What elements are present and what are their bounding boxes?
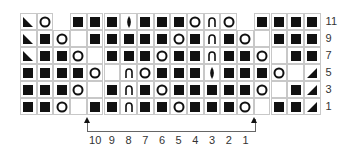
- row-number: 7: [326, 49, 332, 61]
- filled-square-icon: [307, 34, 317, 44]
- right-triangle-icon: [306, 67, 318, 79]
- chart-cell: [104, 30, 121, 47]
- filled-square-icon: [224, 51, 234, 61]
- chart-cell: [170, 64, 187, 81]
- filled-square-icon: [157, 34, 167, 44]
- filled-square-icon: [73, 17, 83, 27]
- filled-square-icon: [57, 85, 67, 95]
- chart-cell: [254, 81, 271, 98]
- filled-square-icon: [40, 68, 50, 78]
- yarn-over-circle-icon: [40, 16, 51, 27]
- chart-cell: [53, 64, 70, 81]
- chart-cell: [271, 13, 288, 30]
- filled-square-icon: [157, 102, 167, 112]
- chart-cell: [220, 81, 237, 98]
- chart-cell: [20, 47, 37, 64]
- filled-square-icon: [257, 17, 267, 27]
- chart-cell: [254, 30, 271, 47]
- chart-cell: [237, 30, 254, 47]
- chart-cell: [20, 81, 37, 98]
- chart-cell: [104, 98, 121, 115]
- chart-cell: [53, 98, 70, 115]
- chart-cell: [287, 47, 304, 64]
- chart-cell: [20, 13, 37, 30]
- filled-square-icon: [207, 85, 217, 95]
- chart-cell: [254, 13, 271, 30]
- chart-cell: [204, 47, 221, 64]
- chart-cell: [37, 13, 54, 30]
- yarn-over-circle-icon: [140, 67, 151, 78]
- column-number: 4: [187, 134, 204, 146]
- no-stitch-gap: [237, 13, 254, 30]
- filled-square-icon: [291, 102, 301, 112]
- chart-cell: [237, 98, 254, 115]
- right-triangle-icon: [306, 101, 318, 113]
- filled-square-icon: [107, 17, 117, 27]
- yarn-over-circle-icon: [190, 16, 201, 27]
- filled-square-icon: [40, 34, 50, 44]
- chart-cell: [187, 47, 204, 64]
- repeat-end-arrow-icon: [251, 117, 257, 123]
- chart-cell: [187, 81, 204, 98]
- chart-cell: [20, 64, 37, 81]
- filled-square-icon: [190, 34, 200, 44]
- filled-square-icon: [307, 17, 317, 27]
- chart-cell: [170, 98, 187, 115]
- column-number: 5: [170, 134, 187, 146]
- chart-cell: [220, 30, 237, 47]
- yarn-over-circle-icon: [156, 84, 167, 95]
- filled-square-icon: [57, 51, 67, 61]
- chart-cell: [37, 47, 54, 64]
- filled-square-icon: [40, 102, 50, 112]
- chart-cell: [304, 13, 321, 30]
- chart-cell: [120, 47, 137, 64]
- filled-square-icon: [107, 85, 117, 95]
- filled-square-icon: [107, 102, 117, 112]
- column-number: 7: [137, 134, 154, 146]
- chart-cell: [70, 47, 87, 64]
- chart-cell: [137, 47, 154, 64]
- chart-cell: [53, 47, 70, 64]
- chart-cell: [220, 64, 237, 81]
- filled-square-icon: [140, 51, 150, 61]
- filled-square-icon: [23, 68, 33, 78]
- filled-square-icon: [240, 85, 250, 95]
- chart-cell: [87, 81, 104, 98]
- chart-cell: [271, 81, 288, 98]
- chart-cell: [204, 13, 221, 30]
- yarn-over-circle-icon: [156, 50, 167, 61]
- filled-square-icon: [157, 68, 167, 78]
- column-number: 2: [220, 134, 237, 146]
- yarn-over-circle-icon: [240, 33, 251, 44]
- chart-cell: [70, 30, 87, 47]
- chart-cell: [87, 64, 104, 81]
- chart-cell: [304, 81, 321, 98]
- chart-cell: [187, 13, 204, 30]
- yarn-over-circle-icon: [90, 67, 101, 78]
- filled-square-icon: [190, 85, 200, 95]
- chart-cell: [120, 98, 137, 115]
- chart-cell: [204, 81, 221, 98]
- chart-cell: [20, 30, 37, 47]
- filled-square-icon: [224, 68, 234, 78]
- chart-cell: [137, 81, 154, 98]
- diamond-icon: [123, 16, 135, 28]
- column-number: 9: [104, 134, 121, 146]
- chart-cell: [70, 64, 87, 81]
- filled-square-icon: [174, 68, 184, 78]
- left-triangle-icon: [22, 33, 34, 45]
- row-number: 1: [326, 100, 332, 112]
- chart-cell: [104, 64, 121, 81]
- chart-cell: [104, 81, 121, 98]
- row-number: 3: [326, 83, 332, 95]
- yarn-over-circle-icon: [223, 16, 234, 27]
- filled-square-icon: [291, 51, 301, 61]
- chart-cell: [70, 81, 87, 98]
- yarn-over-circle-icon: [173, 101, 184, 112]
- arch-icon: [206, 50, 218, 62]
- filled-square-icon: [23, 102, 33, 112]
- chart-cell: [304, 64, 321, 81]
- right-triangle-icon: [306, 84, 318, 96]
- filled-square-icon: [40, 85, 50, 95]
- diamond-icon: [206, 67, 218, 79]
